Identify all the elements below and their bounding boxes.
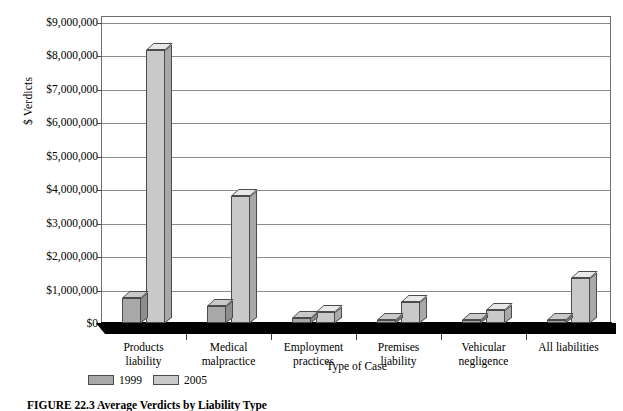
chart-legend: 19992005 bbox=[88, 374, 207, 386]
y-axis-tick-label: $3,000,000 bbox=[6, 217, 98, 229]
bar-face bbox=[292, 318, 311, 323]
bar-side bbox=[250, 190, 257, 323]
bar-face bbox=[571, 278, 590, 323]
legend-swatch-2005 bbox=[153, 375, 179, 385]
chart-baseline bbox=[101, 322, 612, 324]
y-axis-tick-label: $1,000,000 bbox=[6, 284, 98, 296]
bar-group bbox=[526, 16, 611, 323]
bar-side bbox=[165, 45, 172, 323]
y-axis-tick-label: $4,000,000 bbox=[6, 183, 98, 195]
bar-group bbox=[356, 16, 441, 323]
x-axis-category-label-line: All liabilities bbox=[514, 340, 623, 354]
bar-face bbox=[377, 320, 396, 323]
y-axis-tick-label: $7,000,000 bbox=[6, 83, 98, 95]
y-axis-tick-label: $6,000,000 bbox=[6, 116, 98, 128]
y-axis-tick-label: $8,000,000 bbox=[6, 49, 98, 61]
x-axis-category-label: All liabilities bbox=[514, 340, 623, 354]
legend-swatch-1999 bbox=[88, 375, 114, 385]
y-axis-tick-label: $5,000,000 bbox=[6, 150, 98, 162]
bar-2005-employment-practices bbox=[316, 312, 335, 323]
bar-face bbox=[316, 312, 335, 323]
bar-face bbox=[207, 306, 226, 323]
bar-group bbox=[186, 16, 271, 323]
x-axis-title: Type of Case bbox=[0, 360, 623, 372]
legend-item-2005: 2005 bbox=[153, 374, 207, 386]
bar-1999-medical-malpractice bbox=[207, 306, 226, 323]
y-axis-tick-labels: $0$1,000,000$2,000,000$3,000,000$4,000,0… bbox=[6, 0, 98, 340]
bar-2005-medical-malpractice bbox=[231, 196, 250, 323]
y-axis-tick-label: $9,000,000 bbox=[6, 16, 98, 28]
y-axis-tick-label: $0 bbox=[6, 317, 98, 329]
bar-1999-all-liabilities bbox=[547, 320, 566, 323]
bar-group bbox=[101, 16, 186, 323]
bar-1999-employment-practices bbox=[292, 318, 311, 323]
bar-face bbox=[547, 320, 566, 323]
bar-2005-products-liability bbox=[146, 50, 165, 323]
bar-face bbox=[122, 298, 141, 323]
bar-face bbox=[231, 196, 250, 323]
legend-item-1999: 1999 bbox=[88, 374, 142, 386]
chart-floor bbox=[96, 323, 616, 334]
bar-face bbox=[486, 310, 505, 323]
figure-container: $ Verdicts $0$1,000,000$2,000,000$3,000,… bbox=[0, 0, 623, 411]
legend-label: 2005 bbox=[184, 374, 207, 386]
bar-1999-vehicular-negligence bbox=[462, 320, 481, 323]
bar-series-layer bbox=[101, 16, 611, 323]
bar-group bbox=[441, 16, 526, 323]
bar-1999-products-liability bbox=[122, 298, 141, 323]
bar-face bbox=[462, 320, 481, 323]
bar-face bbox=[146, 50, 165, 323]
bar-group bbox=[271, 16, 356, 323]
bar-2005-vehicular-negligence bbox=[486, 310, 505, 323]
legend-label: 1999 bbox=[119, 374, 142, 386]
bar-1999-premises-liability bbox=[377, 320, 396, 323]
bar-2005-all-liabilities bbox=[571, 278, 590, 323]
figure-caption: FIGURE 22.3 Average Verdicts by Liabilit… bbox=[27, 399, 267, 411]
bar-side bbox=[590, 272, 597, 323]
y-axis-tick-label: $2,000,000 bbox=[6, 250, 98, 262]
